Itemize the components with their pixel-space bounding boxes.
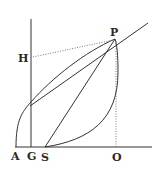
label-o: O bbox=[112, 151, 122, 164]
dotted-line-hp bbox=[33, 40, 113, 57]
label-s: S bbox=[41, 151, 49, 164]
chord-sp bbox=[45, 39, 115, 147]
tangent-line bbox=[30, 23, 148, 106]
geometry-diagram: P H A G S O bbox=[0, 0, 159, 171]
label-a: A bbox=[10, 150, 20, 163]
label-p: P bbox=[110, 26, 118, 39]
label-h: H bbox=[18, 52, 28, 65]
label-g: G bbox=[27, 150, 36, 163]
